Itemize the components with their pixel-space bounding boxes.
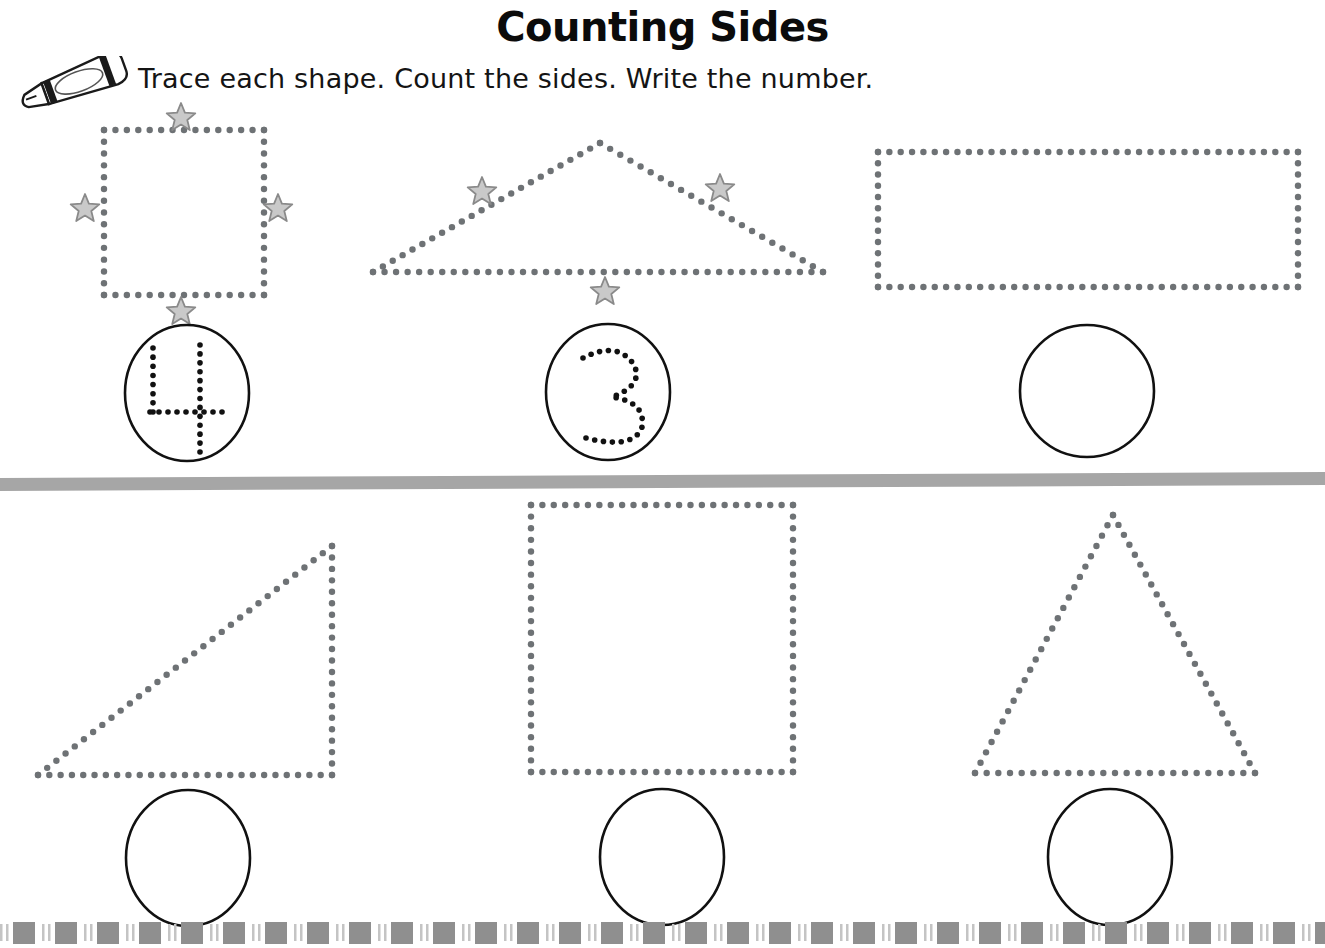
answer-input-3[interactable]: [1020, 325, 1154, 457]
shape-rectangle-top-trace-area[interactable]: [878, 152, 1298, 287]
shape-triangle-tall-trace-area[interactable]: [975, 515, 1255, 773]
section-divider: [0, 472, 1325, 491]
answer-input-2[interactable]: [546, 324, 670, 460]
shape-right-triangle-trace-area[interactable]: [38, 546, 332, 775]
shape-square-large-trace-area[interactable]: [531, 505, 793, 772]
star-icon-star-top: [167, 103, 196, 130]
star-icon-star-left: [71, 194, 100, 221]
decorative-bottom-border: [0, 922, 1325, 944]
star-icon-star-base: [591, 277, 620, 304]
star-icon-star-bottom: [167, 297, 196, 324]
shape-triangle-wide-trace-area[interactable]: [373, 143, 823, 272]
answer-input-5[interactable]: [600, 789, 724, 925]
answer-input-1[interactable]: [125, 325, 249, 461]
worksheet-page: Counting Sides Trace each shape. Count t…: [0, 0, 1325, 948]
shape-square-top-trace-area[interactable]: [104, 130, 264, 295]
answer-input-4[interactable]: [126, 790, 250, 926]
answer-input-6[interactable]: [1048, 789, 1172, 925]
star-icon-star-right: [264, 194, 293, 221]
